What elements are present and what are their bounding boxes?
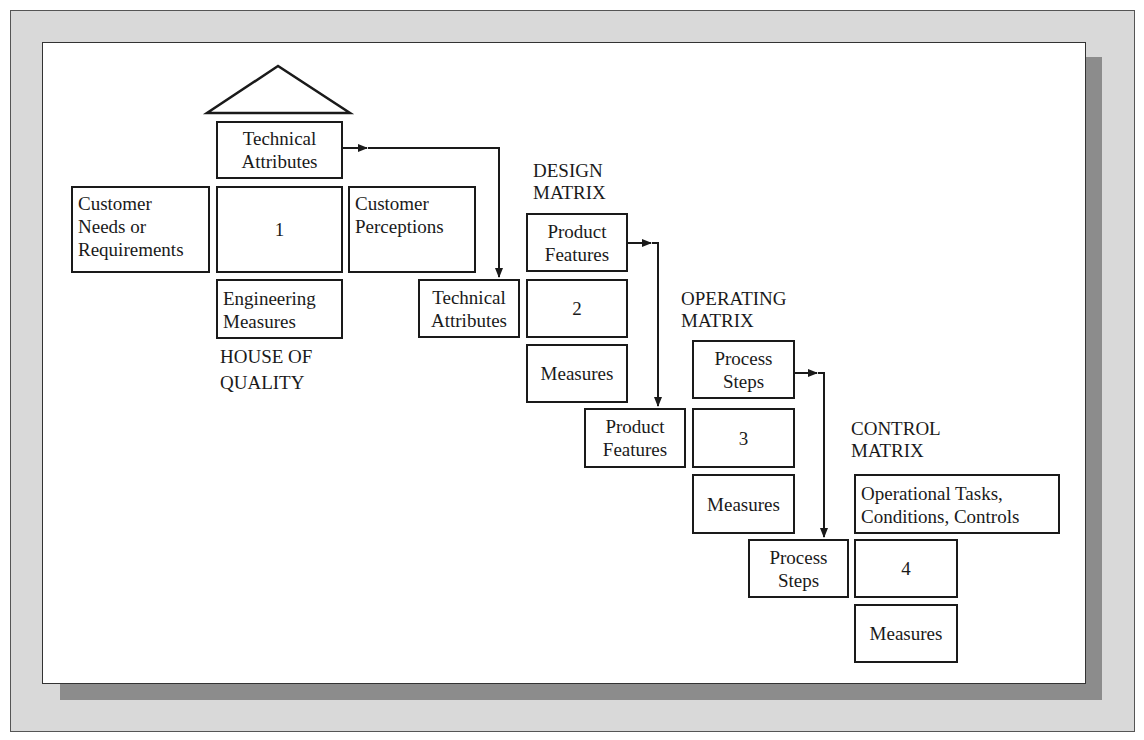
stage1-technical-attributes-box: Technical Attributes bbox=[216, 121, 343, 179]
box-text: Process bbox=[769, 546, 827, 569]
box-text: Customer bbox=[355, 192, 429, 215]
box-text: Product bbox=[605, 415, 664, 438]
box-text: Operational Tasks, bbox=[861, 482, 1003, 505]
stage3-product-features-box: Product Features bbox=[584, 408, 686, 468]
roof-triangle-icon bbox=[207, 66, 350, 113]
box-text: Needs or bbox=[78, 215, 146, 238]
box-text: Attributes bbox=[242, 150, 318, 173]
stage4-process-steps-box: Process Steps bbox=[748, 539, 849, 598]
stage2-product-features-box: Product Features bbox=[526, 213, 628, 272]
box-text: Measures bbox=[870, 622, 943, 645]
stage4-measures-box: Measures bbox=[854, 604, 958, 663]
box-text: Conditions, Controls bbox=[861, 505, 1019, 528]
stage2-technical-attributes-box: Technical Attributes bbox=[418, 279, 520, 338]
stage3-matrix-box: 3 bbox=[692, 408, 795, 468]
title-line: QUALITY bbox=[220, 372, 312, 394]
stage1-title: HOUSE OF QUALITY bbox=[220, 346, 312, 394]
box-text: Attributes bbox=[431, 309, 507, 332]
title-line: MATRIX bbox=[681, 310, 787, 332]
box-text: Technical bbox=[243, 127, 317, 150]
stage1-customer-perceptions-box: Customer Perceptions bbox=[348, 186, 476, 273]
stage3-measures-box: Measures bbox=[692, 474, 795, 534]
stage1-matrix-box: 1 bbox=[216, 186, 343, 273]
stage4-matrix-box: 4 bbox=[854, 539, 958, 598]
title-line: HOUSE OF bbox=[220, 346, 312, 368]
matrix-number: 2 bbox=[572, 297, 582, 320]
title-line: OPERATING bbox=[681, 288, 787, 310]
box-text: Measures bbox=[707, 493, 780, 516]
stage4-operational-tasks-box: Operational Tasks, Conditions, Controls bbox=[854, 474, 1060, 534]
title-line: DESIGN bbox=[533, 160, 606, 182]
title-line: CONTROL bbox=[851, 418, 941, 440]
connector-2-arrow bbox=[627, 243, 658, 406]
matrix-number: 1 bbox=[275, 218, 285, 241]
stage3-process-steps-box: Process Steps bbox=[692, 340, 795, 399]
box-text: Steps bbox=[778, 569, 819, 592]
title-line: MATRIX bbox=[533, 182, 606, 204]
stage2-title: DESIGN MATRIX bbox=[533, 160, 606, 204]
connector-3-arrow bbox=[794, 373, 824, 537]
box-text: Features bbox=[545, 243, 609, 266]
box-text: Engineering bbox=[223, 287, 316, 310]
box-text: Steps bbox=[723, 370, 764, 393]
box-text: Measures bbox=[223, 310, 296, 333]
stage3-title: OPERATING MATRIX bbox=[681, 288, 787, 332]
stage2-measures-box: Measures bbox=[526, 344, 628, 403]
box-text: Product bbox=[547, 220, 606, 243]
title-line: MATRIX bbox=[851, 440, 941, 462]
box-text: Process bbox=[714, 347, 772, 370]
box-text: Requirements bbox=[78, 238, 184, 261]
stage2-matrix-box: 2 bbox=[526, 279, 628, 338]
matrix-number: 3 bbox=[739, 427, 749, 450]
matrix-number: 4 bbox=[901, 557, 911, 580]
box-text: Features bbox=[603, 438, 667, 461]
stage1-engineering-measures-box: Engineering Measures bbox=[216, 279, 343, 339]
box-text: Technical bbox=[432, 286, 506, 309]
box-text: Perceptions bbox=[355, 215, 444, 238]
box-text: Measures bbox=[541, 362, 614, 385]
stage4-title: CONTROL MATRIX bbox=[851, 418, 941, 462]
stage1-customer-needs-box: Customer Needs or Requirements bbox=[71, 186, 210, 273]
box-text: Customer bbox=[78, 192, 152, 215]
